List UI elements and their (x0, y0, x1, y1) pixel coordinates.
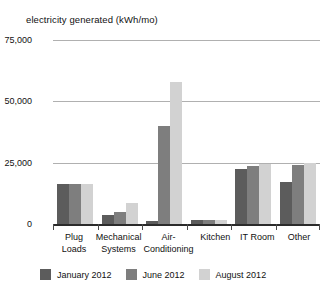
bar (81, 184, 93, 224)
category-label: IT Room (236, 232, 278, 255)
category-label-line: Kitchen (195, 232, 235, 244)
bar (69, 184, 81, 224)
category-tick (142, 224, 187, 231)
category-label: Kitchen (194, 232, 236, 255)
bar (259, 164, 271, 224)
category-tick (231, 224, 276, 231)
category-axis-labels: PlugLoadsMechanicalSystemsAir-Conditioni… (53, 232, 320, 255)
bar-group (53, 40, 98, 224)
plot-area: 025,00050,00075,000 (53, 40, 320, 224)
bar (304, 163, 316, 224)
category-tick (276, 224, 321, 231)
category-label: PlugLoads (53, 232, 95, 255)
bar (158, 126, 170, 224)
category-tick (53, 224, 98, 231)
category-tick (98, 224, 143, 231)
category-label-line: Mechanical (96, 232, 142, 244)
legend-item: June 2012 (126, 269, 185, 280)
chart-legend: January 2012June 2012August 2012 (40, 269, 310, 280)
legend-swatch-icon (126, 269, 137, 280)
category-label-line: Systems (96, 244, 142, 256)
category-label: Other (278, 232, 320, 255)
category-label-line: IT Room (237, 232, 277, 244)
y-axis-tick-label: 25,000 (0, 158, 32, 168)
bar (102, 215, 114, 224)
legend-item: August 2012 (199, 269, 267, 280)
category-tick-marks (53, 224, 320, 231)
legend-label: June 2012 (143, 270, 185, 280)
bar (57, 184, 69, 224)
legend-label: January 2012 (57, 270, 112, 280)
bar (170, 82, 182, 224)
bar-group (142, 40, 187, 224)
bar-chart: electricity generated (kWh/mo) 025,00050… (0, 0, 336, 299)
bar-group (231, 40, 276, 224)
bar-group (276, 40, 321, 224)
bar-groups (53, 40, 320, 224)
y-axis-tick-label: 75,000 (0, 35, 32, 45)
category-label-line: Conditioning (143, 244, 193, 256)
y-axis-tick-label: 50,000 (0, 96, 32, 106)
bar-group (187, 40, 232, 224)
category-label: Air-Conditioning (142, 232, 194, 255)
legend-item: January 2012 (40, 269, 112, 280)
bar (247, 166, 259, 224)
legend-label: August 2012 (216, 270, 267, 280)
y-axis-tick-label: 0 (0, 219, 32, 229)
category-label: MechanicalSystems (95, 232, 143, 255)
bar-group (98, 40, 143, 224)
chart-title: electricity generated (kWh/mo) (26, 14, 158, 25)
bar (114, 212, 126, 224)
bar (235, 169, 247, 224)
category-label-line: Plug (54, 232, 94, 244)
category-label-line: Air- (143, 232, 193, 244)
bar (292, 165, 304, 224)
bar (280, 182, 292, 224)
category-tick (187, 224, 232, 231)
legend-swatch-icon (199, 269, 210, 280)
legend-swatch-icon (40, 269, 51, 280)
category-label-line: Loads (54, 244, 94, 256)
category-label-line: Other (279, 232, 319, 244)
bar (126, 203, 138, 224)
